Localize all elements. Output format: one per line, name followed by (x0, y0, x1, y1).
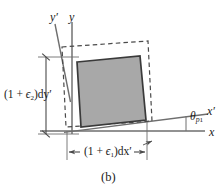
y-prime-axis-label: y′ (50, 11, 58, 23)
deformed-element-shape (77, 56, 146, 127)
x-prime-axis-label: x′ (207, 105, 215, 117)
vdim-close: )dy′ (34, 88, 52, 100)
y-axis-label: y (69, 11, 74, 23)
hdim-close: )dx′ (114, 145, 132, 157)
vdim-open: (1 + (4, 88, 26, 100)
hdim-open: (1 + (84, 145, 106, 157)
x-axis-label: x (209, 126, 214, 138)
figure-caption: (b) (101, 170, 116, 185)
principal-angle-label: θp1 (190, 111, 203, 124)
theta-subscript-1: 1 (200, 116, 204, 124)
horizontal-dimension-label: (1 + ϵ1)dx′ (84, 146, 132, 159)
vertical-dimension-label: (1 + ϵ2)dy′ (4, 89, 52, 102)
strain-element-figure: y′ y x′ x θp1 (1 + ϵ2)dy′ (1 + ϵ1)dx′ (b… (0, 0, 224, 193)
dx-prime-leader (143, 141, 152, 145)
